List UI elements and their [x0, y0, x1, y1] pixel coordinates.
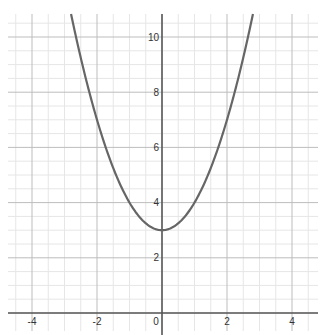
- y-tick-label: 6: [153, 142, 159, 153]
- y-tick-label: 2: [153, 252, 159, 263]
- x-tick-label: -2: [93, 316, 102, 327]
- y-tick-label: 10: [148, 32, 160, 43]
- y-tick-label: 4: [153, 197, 159, 208]
- major-grid: [8, 14, 318, 331]
- x-tick-label: 0: [153, 316, 159, 327]
- function-plot: -4-2024 246810: [0, 0, 324, 335]
- y-tick-label: 8: [153, 87, 159, 98]
- minor-grid: [8, 14, 318, 331]
- x-tick-label: 4: [289, 316, 295, 327]
- x-tick-label: -4: [28, 316, 37, 327]
- x-tick-label: 2: [224, 316, 230, 327]
